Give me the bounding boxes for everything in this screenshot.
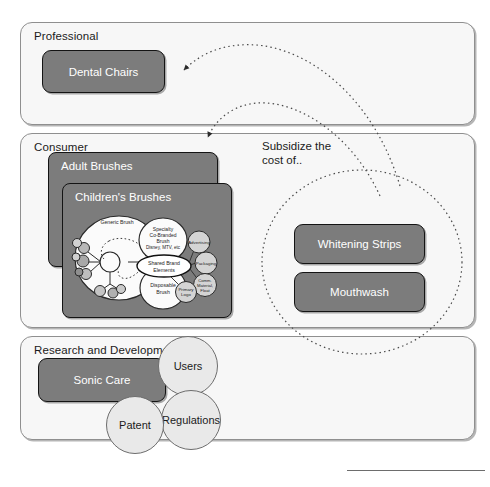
box-sonic-care[interactable]: Sonic Care	[38, 358, 166, 402]
box-mouthwash[interactable]: Mouthwash	[294, 272, 425, 312]
subsidize-line-1: Subsidize the	[262, 139, 362, 153]
circle-users-label: Users	[174, 360, 203, 372]
box-mouthwash-label: Mouthwash	[330, 286, 389, 298]
box-dental-chairs[interactable]: Dental Chairs	[42, 50, 165, 93]
circle-patent-label: Patent	[119, 419, 151, 431]
circle-users[interactable]: Users	[158, 336, 218, 396]
box-sonic-care-label: Sonic Care	[74, 374, 131, 386]
bottom-divider-rule	[347, 470, 485, 471]
circle-regulations[interactable]: Regulations	[161, 390, 221, 450]
panel-adult-brushes-label: Adult Brushes	[61, 160, 133, 172]
circle-regulations-label: Regulations	[162, 414, 220, 426]
subsidize-line-2: cost of..	[262, 153, 362, 167]
panel-children-brushes[interactable]: Children's Brushes	[62, 183, 232, 318]
box-whitening-strips-label: Whitening Strips	[318, 238, 402, 250]
diagram-canvas: Professional Dental Chairs Consumer Adul…	[0, 0, 490, 487]
circle-patent[interactable]: Patent	[106, 396, 164, 454]
box-dental-chairs-label: Dental Chairs	[69, 66, 139, 78]
panel-children-brushes-label: Children's Brushes	[75, 191, 171, 203]
box-whitening-strips[interactable]: Whitening Strips	[294, 224, 425, 264]
subsidize-annotation: Subsidize the cost of..	[262, 139, 362, 167]
lane-rnd-label: Research and Development	[34, 344, 179, 356]
lane-professional-label: Professional	[34, 30, 98, 42]
